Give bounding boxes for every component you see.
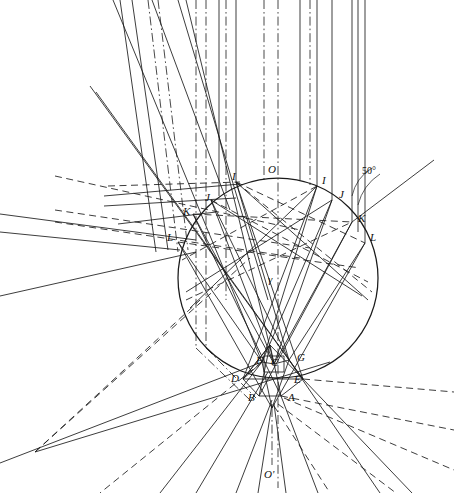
label-F: F	[256, 355, 263, 366]
label-A: A	[288, 392, 295, 403]
label-C: C	[271, 357, 278, 368]
label-E: E	[294, 374, 301, 385]
angle-label-50deg: 50°	[362, 166, 376, 176]
incident-beam-solid	[219, 0, 365, 243]
label-L-right: L	[370, 232, 376, 243]
figure-canvas: .s { stroke:#1a1a1a; stroke-width:0.85; …	[0, 0, 454, 493]
label-J-left: J	[205, 192, 210, 203]
label-L-left: L	[167, 232, 173, 243]
emergent-solid-rays-left	[0, 214, 330, 463]
label-O-prime: O'	[264, 469, 274, 480]
left-construction-grid	[104, 0, 240, 252]
label-I-right: I	[322, 175, 326, 186]
label-gamma: γ	[268, 274, 272, 285]
upper-left-oblique-rays	[90, 0, 303, 379]
incident-beam-dashdot	[196, 0, 310, 348]
label-I-left: I	[232, 171, 236, 182]
label-K-left: K	[183, 206, 190, 217]
ray-diagram-svg: .s { stroke:#1a1a1a; stroke-width:0.85; …	[0, 0, 454, 493]
label-K-right: K	[358, 213, 365, 224]
label-J-right: J	[339, 189, 344, 200]
label-D: D	[231, 373, 239, 384]
exit-fan-solid	[160, 360, 412, 493]
label-B: B	[248, 392, 255, 403]
label-G: G	[297, 352, 305, 363]
label-O: O	[268, 164, 276, 175]
